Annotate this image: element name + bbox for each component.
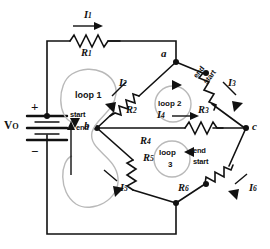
- resistor-label-r4: R4: [140, 136, 151, 147]
- loop3-label-line2: 3: [168, 160, 172, 169]
- i2-sub: 2: [123, 79, 127, 88]
- wire-b-to-r5: [97, 128, 133, 160]
- current-label-i3: I3: [228, 78, 236, 89]
- battery-label-sub: O: [12, 122, 18, 131]
- r2-letter: R: [126, 104, 133, 115]
- circuit-svg: [0, 0, 270, 249]
- junction-dots: [44, 59, 249, 206]
- r5-letter: R: [143, 152, 150, 163]
- resistor-r6-zigzag: [205, 165, 233, 184]
- r1-letter: R: [81, 47, 88, 58]
- r2-sub: 2: [133, 106, 137, 115]
- arrow-i6: [228, 174, 247, 200]
- i6-sub: 6: [253, 184, 257, 193]
- loop3-label-line1: loop: [159, 148, 176, 157]
- arrow-loop1-end: [67, 121, 75, 175]
- arrow-i1: [73, 22, 103, 30]
- dot-node-c: [243, 125, 249, 131]
- r4-letter: R: [140, 135, 147, 146]
- circuit-diagram: + − VO a b c R1 R2 R3 R4 R5 R6 I1 I2 I3 …: [0, 0, 270, 249]
- loop1-start-label: start: [70, 111, 85, 119]
- current-label-i6: I6: [249, 183, 257, 194]
- resistor-label-r3: R3: [198, 105, 209, 116]
- loop1-end-label: end: [76, 124, 89, 132]
- wire-r3-to-c: [212, 104, 246, 129]
- dot-node-bottom: [173, 200, 179, 206]
- r6-sub: 6: [185, 184, 189, 193]
- battery-minus-label: −: [31, 145, 38, 158]
- r1-sub: 1: [88, 49, 92, 58]
- i3-sub: 3: [232, 79, 236, 88]
- r5-sub: 5: [150, 154, 154, 163]
- loop3-start-label: start: [193, 158, 208, 166]
- resistor-label-r2: R2: [126, 105, 137, 116]
- i4-sub: 4: [161, 111, 165, 120]
- arrow-i4: [172, 112, 199, 120]
- current-label-i5: I5: [120, 183, 128, 194]
- resistor-r5-zigzag: [127, 160, 136, 190]
- dot-node-a: [173, 59, 179, 65]
- node-label-c: c: [252, 121, 257, 132]
- loop2-arrowhead: [172, 80, 182, 90]
- resistor-label-r1: R1: [81, 48, 92, 59]
- loop1-label: loop 1: [75, 90, 102, 100]
- loop3-end-label: end: [193, 147, 206, 155]
- wire-a-to-r2: [139, 62, 176, 96]
- i1-sub: 1: [88, 11, 92, 20]
- i5-sub: 5: [124, 184, 128, 193]
- resistor-label-r5: R5: [143, 153, 154, 164]
- current-label-i4: I4: [157, 110, 165, 121]
- node-label-a: a: [161, 48, 167, 59]
- r4-sub: 4: [147, 137, 151, 146]
- current-label-i1: I1: [84, 10, 92, 21]
- dot-loop3-start: [203, 181, 209, 187]
- battery-label: VO: [4, 120, 19, 132]
- dot-battery-top: [44, 113, 50, 119]
- resistor-label-r6: R6: [178, 183, 189, 194]
- wire-r6-to-c: [229, 128, 246, 166]
- battery-plus-label: +: [31, 100, 38, 113]
- loop3-circle: [154, 141, 190, 177]
- wire-r5-to-bottom: [133, 190, 176, 203]
- r3-letter: R: [198, 104, 205, 115]
- r6-letter: R: [178, 182, 185, 193]
- current-label-i2: I2: [119, 78, 127, 89]
- r3-sub: 3: [205, 106, 209, 115]
- loop2-label: loop 2: [158, 99, 182, 108]
